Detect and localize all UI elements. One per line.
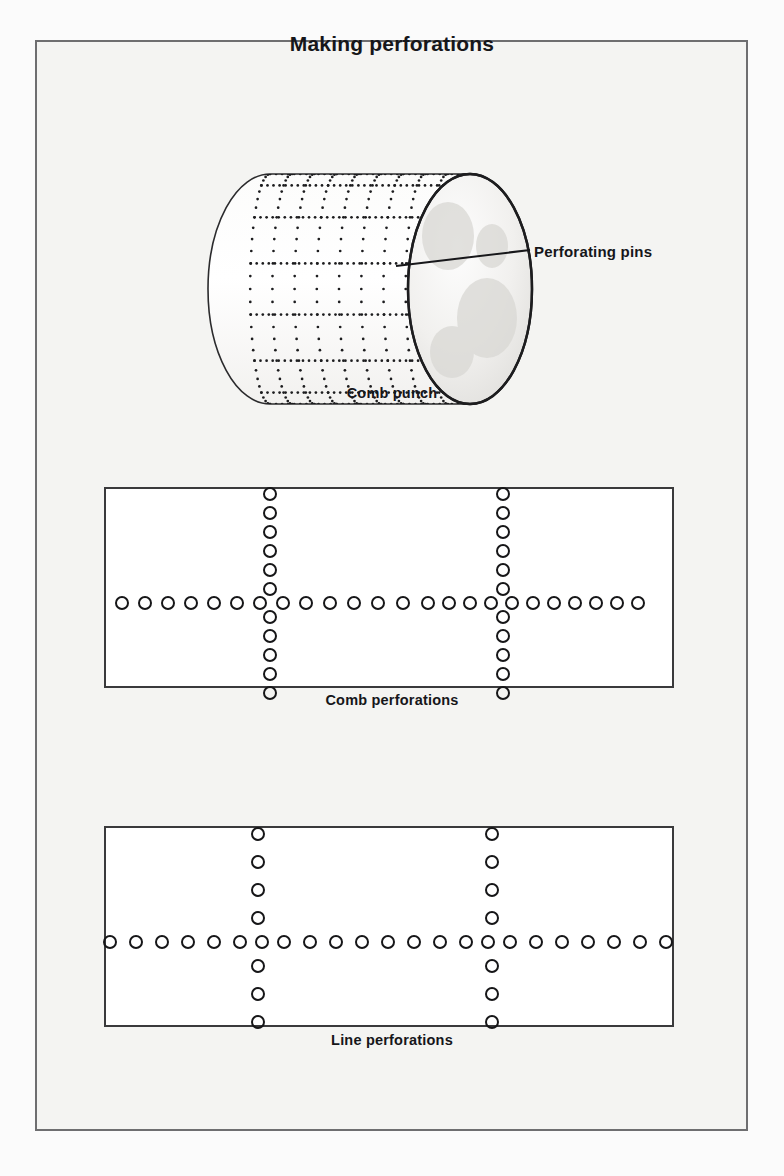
perforation-hole xyxy=(433,935,447,949)
perforation-hole xyxy=(263,544,277,558)
caption-comb-punch: Comb punch xyxy=(0,385,784,401)
perforation-hole xyxy=(589,596,603,610)
perforation-hole xyxy=(263,582,277,596)
perforation-hole xyxy=(381,935,395,949)
perforation-hole xyxy=(263,648,277,662)
perforation-hole xyxy=(303,935,317,949)
perforation-hole xyxy=(251,959,265,973)
perforation-hole xyxy=(496,506,510,520)
perforation-hole xyxy=(347,596,361,610)
page-title: Making perforations xyxy=(0,32,784,56)
perforation-hole xyxy=(161,596,175,610)
perforation-hole xyxy=(263,667,277,681)
perforation-hole xyxy=(496,525,510,539)
perforation-hole xyxy=(407,935,421,949)
line-perforations-frame xyxy=(104,826,674,1027)
perforation-hole xyxy=(323,596,337,610)
perforation-hole xyxy=(263,563,277,577)
perforation-hole xyxy=(496,667,510,681)
perforation-hole xyxy=(485,1015,499,1029)
perforation-hole xyxy=(485,855,499,869)
comb-perforations-frame xyxy=(104,487,674,688)
perforation-hole xyxy=(251,827,265,841)
perforation-hole xyxy=(485,911,499,925)
perforation-hole xyxy=(463,596,477,610)
perforation-hole xyxy=(329,935,343,949)
perforation-hole xyxy=(485,959,499,973)
perforation-hole xyxy=(459,935,473,949)
perforation-hole xyxy=(230,596,244,610)
perforation-hole xyxy=(503,935,517,949)
perforation-hole xyxy=(355,935,369,949)
perforation-hole xyxy=(251,855,265,869)
perforation-hole xyxy=(251,883,265,897)
perforation-hole xyxy=(610,596,624,610)
perforation-hole xyxy=(607,935,621,949)
perforation-hole xyxy=(263,487,277,501)
perforation-hole xyxy=(555,935,569,949)
perforation-hole xyxy=(484,596,498,610)
perforating-pins-label: Perforating pins xyxy=(534,243,652,260)
perforation-hole xyxy=(233,935,247,949)
perforation-hole xyxy=(633,935,647,949)
perforation-hole xyxy=(496,544,510,558)
perforation-hole xyxy=(371,596,385,610)
perforation-hole xyxy=(485,827,499,841)
perforation-hole xyxy=(138,596,152,610)
perforation-hole xyxy=(496,648,510,662)
caption-comb-perforations: Comb perforations xyxy=(0,692,784,708)
perforation-hole xyxy=(529,935,543,949)
perforation-hole xyxy=(263,610,277,624)
perforation-hole xyxy=(207,935,221,949)
perforation-hole xyxy=(263,506,277,520)
perforation-hole xyxy=(129,935,143,949)
perforation-hole xyxy=(421,596,435,610)
perforation-hole xyxy=(496,582,510,596)
perforation-hole xyxy=(496,487,510,501)
perforation-hole xyxy=(263,525,277,539)
perforation-hole xyxy=(255,935,269,949)
perforation-hole xyxy=(207,596,221,610)
perforation-hole xyxy=(631,596,645,610)
perforation-hole xyxy=(181,935,195,949)
perforation-hole xyxy=(547,596,561,610)
perforation-hole xyxy=(442,596,456,610)
perforation-hole xyxy=(263,629,277,643)
perforation-hole xyxy=(277,935,291,949)
perforation-hole xyxy=(496,563,510,577)
perforation-hole xyxy=(251,987,265,1001)
perforation-hole xyxy=(496,629,510,643)
perforation-hole xyxy=(251,1015,265,1029)
figure-page: Making perforations xyxy=(0,0,784,1176)
perforation-hole xyxy=(485,883,499,897)
perforation-hole xyxy=(568,596,582,610)
perforation-hole xyxy=(115,596,129,610)
perforation-hole xyxy=(496,610,510,624)
perforation-hole xyxy=(299,596,313,610)
perforation-hole xyxy=(276,596,290,610)
perforation-hole xyxy=(253,596,267,610)
perforation-hole xyxy=(184,596,198,610)
perforation-hole xyxy=(526,596,540,610)
perforation-hole xyxy=(581,935,595,949)
perforation-hole xyxy=(103,935,117,949)
perforation-hole xyxy=(505,596,519,610)
perforation-hole xyxy=(481,935,495,949)
perforation-hole xyxy=(155,935,169,949)
perforation-hole xyxy=(251,911,265,925)
caption-line-perforations: Line perforations xyxy=(0,1032,784,1048)
perforation-hole xyxy=(485,987,499,1001)
perforation-hole xyxy=(659,935,673,949)
perforation-hole xyxy=(396,596,410,610)
